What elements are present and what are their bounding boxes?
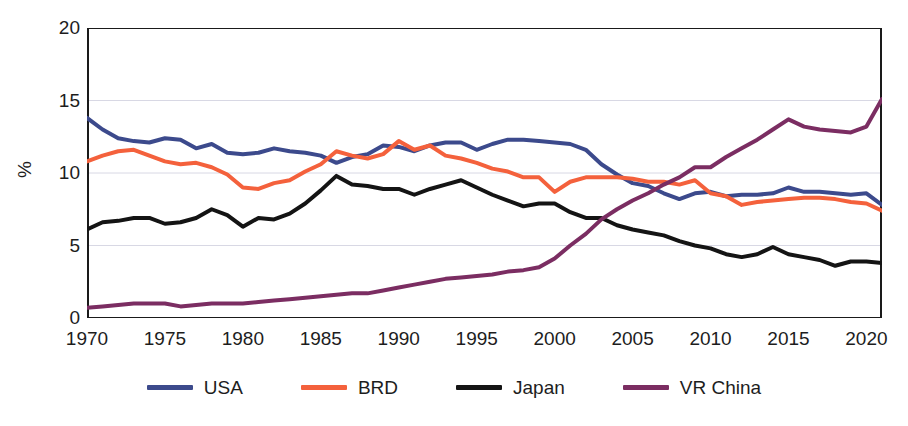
- legend-item-brd[interactable]: BRD: [301, 378, 398, 397]
- legend-swatch-icon: [147, 385, 193, 390]
- legend-label: BRD: [358, 378, 398, 397]
- x-tick-2015: 2015: [756, 329, 820, 348]
- x-tick-2000: 2000: [523, 329, 587, 348]
- series-line-japan: [87, 176, 882, 266]
- series-line-brd: [87, 141, 882, 211]
- y-tick-20: 20: [34, 18, 80, 37]
- y-axis-tick-labels: 20151050: [34, 0, 80, 426]
- x-tick-2020: 2020: [834, 329, 898, 348]
- y-tick-0: 0: [34, 308, 80, 327]
- y-tick-10: 10: [34, 163, 80, 182]
- y-tick-15: 15: [34, 91, 80, 110]
- legend-swatch-icon: [456, 385, 502, 390]
- legend-item-usa[interactable]: USA: [147, 378, 243, 397]
- x-tick-1970: 1970: [55, 329, 119, 348]
- line-chart-svg: [87, 28, 882, 318]
- x-tick-1985: 1985: [289, 329, 353, 348]
- chart-legend: USABRDJapanVR China: [0, 378, 908, 397]
- legend-label: VR China: [680, 378, 761, 397]
- legend-swatch-icon: [301, 385, 347, 390]
- plot-area: [87, 28, 882, 318]
- legend-swatch-icon: [623, 385, 669, 390]
- legend-label: Japan: [513, 378, 565, 397]
- x-tick-2010: 2010: [679, 329, 743, 348]
- x-tick-1980: 1980: [211, 329, 275, 348]
- legend-label: USA: [204, 378, 243, 397]
- x-tick-1995: 1995: [445, 329, 509, 348]
- legend-item-japan[interactable]: Japan: [456, 378, 565, 397]
- chart-root: % 20151050 19701975198019851990199520002…: [0, 0, 908, 426]
- x-tick-1975: 1975: [133, 329, 197, 348]
- y-axis-title: %: [14, 161, 36, 178]
- x-tick-2005: 2005: [601, 329, 665, 348]
- legend-item-vr-china[interactable]: VR China: [623, 378, 761, 397]
- y-tick-5: 5: [34, 236, 80, 255]
- x-tick-1990: 1990: [367, 329, 431, 348]
